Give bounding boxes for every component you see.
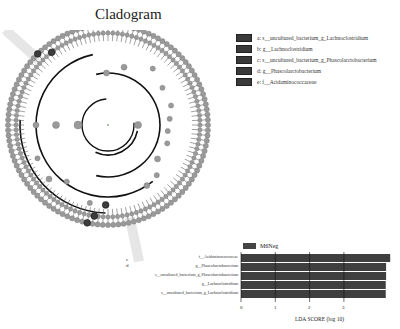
x-axis-label: LDA SCORE (log 10): [295, 316, 344, 322]
x-tick: 1: [274, 305, 277, 310]
bar-label: s__uncultured_bacterium_g_Phascolarctoba…: [128, 272, 238, 277]
bar-label: g__Phascolarctobacterium: [128, 263, 238, 268]
bar-label: s__uncultured_bacterium_g_Lachnoclostrid…: [128, 290, 238, 295]
lda-bar-chart: [0, 0, 400, 329]
x-tick: 3: [342, 305, 345, 310]
bar-label: f__Acidaminococcaceae: [128, 254, 238, 259]
x-tick: 2: [308, 305, 311, 310]
x-tick: 0: [240, 305, 243, 310]
bar-label: g__Lachnoclostridium: [128, 281, 238, 286]
